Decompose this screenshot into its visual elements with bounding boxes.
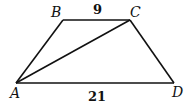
length-label-ad: 21 (88, 89, 106, 104)
segment-ab (16, 20, 63, 83)
length-label-bc: 9 (93, 2, 102, 17)
vertex-label-a: A (8, 85, 20, 101)
trapezoid-diagram: B 9 C A 21 D (0, 0, 193, 104)
vertex-label-d: D (171, 84, 183, 100)
vertex-label-b: B (50, 4, 61, 20)
diagonal-ac (16, 20, 130, 83)
segment-cd (130, 20, 174, 83)
vertex-label-c: C (130, 4, 141, 20)
